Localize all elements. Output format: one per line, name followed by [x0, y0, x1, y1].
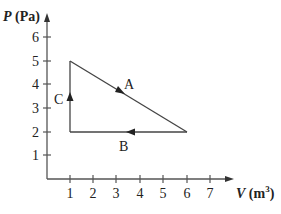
y-tick-5: 5 [32, 54, 39, 69]
y-tick-2: 2 [32, 125, 39, 140]
x-tick-1: 1 [67, 186, 74, 201]
path-a-label: A [124, 77, 135, 92]
y-tick-1: 1 [32, 148, 39, 163]
y-tick-6: 6 [32, 30, 39, 45]
path-b-label: B [119, 139, 128, 154]
path-c-arrow-icon [67, 92, 74, 101]
path-b-arrow-icon [126, 129, 135, 136]
pv-diagram: 1 2 3 4 5 6 1 2 3 4 5 6 7 P (Pa) V (m3) [0, 0, 281, 214]
y-axis-arrow-icon [44, 13, 50, 22]
path-c-label: C [54, 92, 63, 107]
x-tick-2: 2 [90, 186, 97, 201]
y-tick-3: 3 [32, 101, 39, 116]
x-tick-5: 5 [160, 186, 167, 201]
x-tick-3: 3 [113, 186, 120, 201]
path-a [70, 61, 187, 132]
x-tick-7: 7 [207, 186, 214, 201]
y-axis-label: P (Pa) [3, 9, 40, 25]
x-axis-arrow-icon [225, 176, 234, 182]
x-axis-label: V (m3) [236, 184, 275, 202]
y-tick-4: 4 [32, 77, 39, 92]
x-tick-4: 4 [137, 186, 144, 201]
x-tick-6: 6 [184, 186, 191, 201]
